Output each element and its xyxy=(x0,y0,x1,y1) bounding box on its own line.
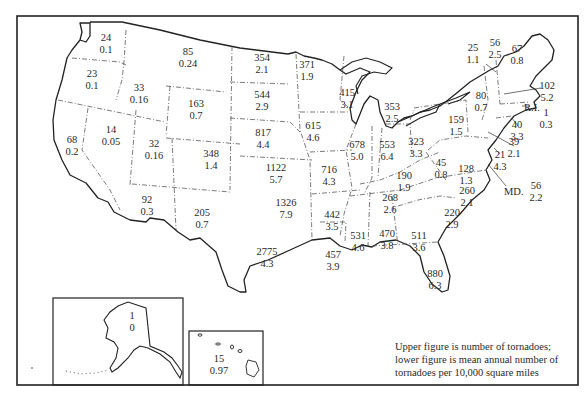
tornado-count: 25 xyxy=(466,42,479,54)
tornado-rate: 3.5 xyxy=(324,221,340,233)
tornado-rate: 0.3 xyxy=(140,206,153,218)
tornado-count: 24 xyxy=(99,32,112,44)
state-label-kentucky: 1901.9 xyxy=(396,170,412,194)
tornado-count: 544 xyxy=(254,89,270,101)
legend-line-1: Upper figure is number of tornadoes; xyxy=(395,340,558,353)
tornado-rate: 5.0 xyxy=(349,151,365,163)
tornado-rate: 4.4 xyxy=(255,139,271,151)
state-label-nebraska: 8174.4 xyxy=(255,127,271,151)
state-label-nevada: 140.05 xyxy=(102,124,120,148)
tornado-count: 511 xyxy=(411,230,426,242)
state-label-south-carolina: 2202.9 xyxy=(444,207,460,231)
tornado-count: 85 xyxy=(179,46,197,58)
state-label-alaska: 10 xyxy=(129,310,134,334)
tornado-rate: 2.5 xyxy=(488,49,501,61)
tornado-rate: 2.9 xyxy=(254,101,270,113)
tornado-count: 716 xyxy=(321,164,337,176)
tornado-rate: 0.97 xyxy=(210,365,228,377)
tornado-count: 553 xyxy=(379,139,395,151)
state-label-oklahoma: 13267.9 xyxy=(276,197,297,221)
tornado-rate: 2.1 xyxy=(459,197,475,209)
tornado-rate: 4.3 xyxy=(321,176,337,188)
tornado-rate: 3.6 xyxy=(411,242,426,254)
tornado-count: 67 xyxy=(510,43,523,55)
tornado-rate: 5.7 xyxy=(266,174,287,186)
tornado-count: 32 xyxy=(145,138,163,150)
state-label-new-jersey: 392.1 xyxy=(507,136,520,160)
tornado-rate: 0.8 xyxy=(434,169,447,181)
tornado-count: 15 xyxy=(210,353,228,365)
legend-line-3: tornadoes per 10,000 square miles xyxy=(395,366,558,379)
ri-abbreviation: R.I. xyxy=(524,102,540,113)
state-label-california: 680.2 xyxy=(65,134,78,158)
tornado-count: 23 xyxy=(85,68,98,80)
state-label-texas: 27754.3 xyxy=(257,246,278,270)
state-label-colorado: 3481.4 xyxy=(203,148,219,172)
tornado-rate: 0.1 xyxy=(99,44,112,56)
state-label-wyoming: 1630.7 xyxy=(188,98,204,122)
state-label-alabama: 4703.8 xyxy=(379,228,395,252)
tornado-count: 33 xyxy=(130,82,148,94)
tornado-count: 371 xyxy=(299,59,315,71)
tornado-rate: 0.16 xyxy=(145,150,163,162)
state-label-new-york: 800.7 xyxy=(474,90,487,114)
tornado-count: 1 xyxy=(129,310,134,322)
state-label-vermont: 251.1 xyxy=(466,42,479,66)
tornado-rate: 2.9 xyxy=(444,219,460,231)
tornado-count: 220 xyxy=(444,207,460,219)
tornado-count: 1326 xyxy=(276,197,297,209)
tornado-rate: 0 xyxy=(129,322,134,334)
tornado-count: 45 xyxy=(434,157,447,169)
tornado-rate: 1.3 xyxy=(458,175,474,187)
hawaii-islands xyxy=(198,334,259,377)
tornado-count: 348 xyxy=(203,148,219,160)
state-label-rhode-island: 10.3 xyxy=(539,107,552,131)
tornado-count: 1122 xyxy=(266,162,287,174)
tornado-count: 353 xyxy=(384,101,400,113)
state-label-north-carolina: 2602.1 xyxy=(459,185,475,209)
tornado-rate: 1.5 xyxy=(448,126,464,138)
state-label-maine: 670.8 xyxy=(510,43,523,67)
state-label-louisiana: 4573.9 xyxy=(325,249,341,273)
tornado-count: 268 xyxy=(382,192,398,204)
state-label-new-hampshire: 562.5 xyxy=(488,37,501,61)
tornado-rate: 1.9 xyxy=(299,71,315,83)
md-abbreviation: MD. xyxy=(504,186,524,197)
state-label-new-mexico: 2050.7 xyxy=(194,207,210,231)
tornado-count: 2775 xyxy=(257,246,278,258)
alaska-outline xyxy=(104,302,182,378)
tornado-count: 40 xyxy=(510,119,523,131)
tornado-count: 442 xyxy=(324,209,340,221)
tornado-rate: 1.4 xyxy=(203,160,219,172)
state-label-tennessee: 2682.6 xyxy=(382,192,398,216)
tornado-rate: 0.05 xyxy=(102,136,120,148)
tornado-rate: 6.3 xyxy=(427,280,443,292)
state-label-west-virginia: 450.8 xyxy=(434,157,447,181)
tornado-count: 531 xyxy=(350,230,366,242)
tornado-rate: 0.7 xyxy=(194,219,210,231)
tornado-count: 678 xyxy=(349,139,365,151)
state-label-georgia: 5113.6 xyxy=(411,230,426,254)
alaska-inset-frame xyxy=(53,298,183,385)
state-label-utah: 320.16 xyxy=(145,138,163,162)
tornado-rate: 2.2 xyxy=(529,192,542,204)
tornado-count: 14 xyxy=(102,124,120,136)
tornado-rate: 5.2 xyxy=(539,92,555,104)
tornado-count: 56 xyxy=(488,37,501,49)
state-label-idaho: 330.16 xyxy=(130,82,148,106)
state-label-missouri: 7164.3 xyxy=(321,164,337,188)
state-label-north-dakota: 3542.1 xyxy=(254,52,270,76)
tornado-rate: 1.9 xyxy=(396,182,412,194)
state-label-maryland: 562.2 xyxy=(529,180,542,204)
tornado-rate: 0.24 xyxy=(179,58,197,70)
tornado-count: 205 xyxy=(194,207,210,219)
state-label-ohio: 3233.3 xyxy=(408,136,424,160)
state-label-minnesota: 3711.9 xyxy=(299,59,315,83)
map-legend: Upper figure is number of tornadoes; low… xyxy=(395,340,558,379)
state-label-south-dakota: 5442.9 xyxy=(254,89,270,113)
tornado-count: 92 xyxy=(140,194,153,206)
state-label-arizona: 920.3 xyxy=(140,194,153,218)
tornado-rate: 0.16 xyxy=(130,94,148,106)
tornado-count: 102 xyxy=(539,80,555,92)
state-label-florida: 8806.3 xyxy=(427,268,443,292)
